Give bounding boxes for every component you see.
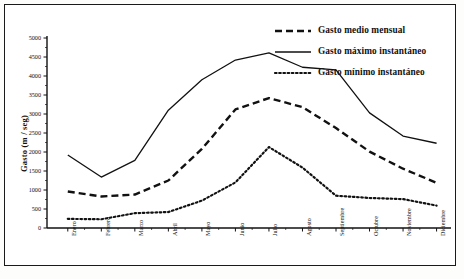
series-line: [68, 98, 437, 196]
plot-area: [0, 0, 464, 279]
chart-figure: Gasto (m / seg) 050010001500200025003000…: [0, 0, 464, 279]
axes: [44, 36, 452, 232]
legend-swatches: [275, 31, 311, 73]
data-series: [68, 53, 437, 219]
